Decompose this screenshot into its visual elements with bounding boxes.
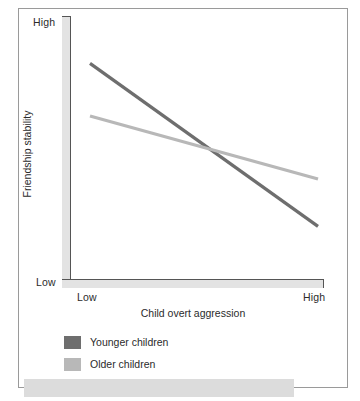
x-axis-tick-high: High	[303, 291, 325, 303]
x-axis-title: Child overt aggression	[62, 307, 324, 319]
figure-container: High Low Low High Friendship stability C…	[0, 0, 360, 401]
legend-swatch-icon-younger-children	[64, 336, 81, 349]
legend-swatch-icon-older-children	[64, 358, 81, 371]
x-axis	[62, 279, 324, 288]
y-axis-title: Friendship stability	[21, 89, 33, 219]
x-axis-right-tick	[323, 279, 324, 288]
y-axis-tick-high: High	[33, 16, 55, 28]
legend-item-younger-children: Younger children	[64, 331, 168, 353]
y-axis	[62, 16, 71, 288]
legend: Younger children Older children	[64, 331, 168, 375]
legend-item-older-children: Older children	[64, 353, 168, 375]
y-axis-top-tick	[62, 16, 71, 17]
bottom-decorative-band	[24, 379, 294, 397]
y-axis-tick-low: Low	[36, 276, 56, 288]
x-axis-tick-low: Low	[77, 291, 97, 303]
legend-label-older-children: Older children	[90, 358, 155, 370]
legend-label-younger-children: Younger children	[90, 336, 168, 348]
